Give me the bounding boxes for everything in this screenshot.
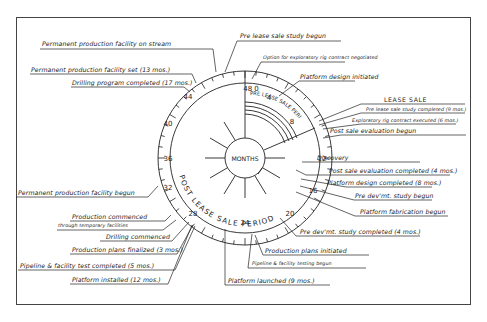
timeline-dial: 48 0 4 8 12 16 20 24 28 32 36 40 44 MONT… — [0, 0, 487, 322]
event-pre-devmt-study-begun: Pre dev'mt. study begun — [355, 192, 433, 199]
event-post-sale-evaluation-completed: Post sale evaluation completed (4 mos.) — [329, 167, 458, 174]
event-option-rig-contract: Option for exploratory rig contract nego… — [263, 55, 378, 60]
event-platform-installed: Platform installed (12 mos.) — [72, 276, 161, 283]
event-rig-contract-executed: Exploratory rig contract executed (6 mos… — [352, 118, 459, 123]
tick-36: 36 — [164, 155, 173, 163]
event-production-facility-set: Permanent production facility set (13 mo… — [31, 66, 170, 73]
event-platform-fabrication-begun: Platform fabrication begun — [360, 208, 445, 215]
post-lease-period-label: POST LEASE SALE PERIOD — [177, 174, 276, 229]
event-discovery: Discovery — [317, 154, 348, 161]
event-production-plans-finalized: Production plans finalized (3 mos.) — [72, 246, 183, 253]
event-temporary-facilities: through temporary facilities — [58, 223, 128, 228]
center-label: MONTHS — [231, 155, 258, 162]
event-drilling-commenced: Drilling commenced — [106, 233, 170, 240]
tick-32: 32 — [164, 184, 173, 192]
event-pre-lease-study-begun: Pre lease sale study begun — [240, 32, 326, 39]
event-production-on-stream: Permanent production facility on stream — [42, 40, 171, 47]
event-pre-lease-study-completed: Pre lease sale study completed (9 mos.) — [366, 107, 466, 112]
event-production-plans-initiated: Production plans initiated — [265, 247, 347, 254]
event-lease-sale: LEASE SALE — [384, 96, 427, 103]
event-platform-design-initiated: Platform design initiated — [300, 73, 379, 80]
tick-28: 28 — [189, 210, 198, 218]
event-pipeline-testing-begun: Pipeline & facility testing begun — [252, 261, 332, 266]
event-platform-launched: Platform launched (9 mos.) — [228, 277, 315, 284]
tick-20: 20 — [286, 210, 295, 218]
pre-lease-period-label: PRE LEASE SALE PERIOD — [0, 0, 303, 120]
tick-40: 40 — [164, 120, 173, 128]
event-production-facility-begun: Permanent production facility begun — [18, 189, 135, 196]
event-pre-devmt-study-completed: Pre dev'mt. study completed (4 mos.) — [300, 228, 421, 235]
event-platform-design-completed: Platform design completed (8 mos.) — [327, 179, 442, 186]
event-production-commenced: Production commenced — [72, 213, 147, 220]
event-pipeline-test-completed: Pipeline & facility test completed (5 mo… — [20, 262, 154, 269]
tick-8: 8 — [290, 118, 294, 126]
tick-44: 44 — [184, 93, 193, 101]
event-post-sale-evaluation-begun: Post sale evaluation begun — [330, 127, 416, 134]
tick-16: 16 — [309, 187, 318, 195]
event-drilling-program-completed: Drilling program completed (17 mos.) — [72, 79, 193, 86]
